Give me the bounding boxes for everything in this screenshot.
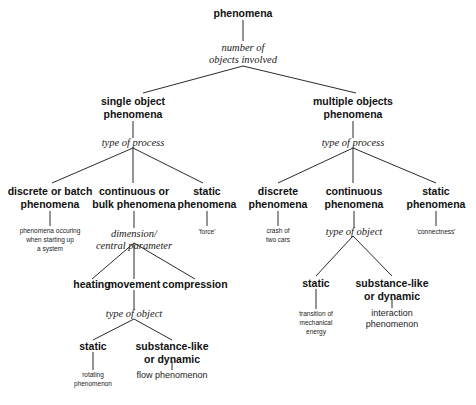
example-text: 'connectness' [417, 227, 456, 236]
node-continuous-or-bulk-phenomena: continuous or bulk phenomena [92, 185, 175, 211]
example-crash-of-two-cars: crash of two cars [266, 226, 290, 244]
criterion-text: objects involved [209, 54, 277, 66]
node-label: single object [101, 95, 165, 108]
node-label: phenomena [214, 7, 273, 20]
node-label: discrete or batch [8, 185, 93, 198]
criterion-text: type of process [102, 137, 165, 149]
criterion-text: central parameter [96, 240, 172, 252]
criterion-text: type of object [326, 226, 383, 238]
node-phenomena: phenomena [214, 7, 273, 20]
node-label: static [178, 185, 237, 198]
node-static-movement: static [79, 340, 106, 353]
node-label: bulk phenomena [92, 198, 175, 211]
criterion-type-of-process-multiple: type of process [322, 137, 385, 149]
example-starting-up-system: phenomena occuring when starting up a sy… [20, 226, 81, 253]
example-connectness: 'connectness' [417, 227, 456, 236]
example-force: 'force' [199, 227, 216, 236]
node-substance-like-or-dynamic-movement: substance-like or dynamic [136, 340, 209, 366]
criterion-text: type of process [322, 137, 385, 149]
criterion-text: number of [209, 42, 277, 54]
node-label: phenomena [178, 198, 237, 211]
node-label: phenomena [407, 198, 466, 211]
node-label: phenomena [313, 108, 393, 121]
node-label: multiple objects [313, 95, 393, 108]
node-static-phenomena-multiple: static phenomena [407, 185, 466, 211]
criterion-dimension-central-parameter: dimension/ central parameter [96, 228, 172, 252]
node-label: or dynamic [356, 290, 429, 303]
example-text: a system [20, 244, 81, 253]
example-text: phenomenon [74, 379, 112, 388]
node-substance-like-or-dynamic-continuous: substance-like or dynamic [356, 277, 429, 303]
node-label: compression [162, 278, 227, 291]
example-text: 'force' [199, 227, 216, 236]
node-static-phenomena-single: static phenomena [178, 185, 237, 211]
node-label: movement [108, 278, 161, 291]
node-label: continuous or [92, 185, 175, 198]
node-label: substance-like [136, 340, 209, 353]
criterion-text: type of object [106, 308, 163, 320]
node-continuous-phenomena: continuous phenomena [325, 185, 384, 211]
example-text: crash of [266, 226, 290, 235]
example-text: rotating [74, 370, 112, 379]
example-text: energy [299, 327, 333, 336]
node-label: static [407, 185, 466, 198]
node-label: static [302, 277, 329, 290]
example-text: flow phenomenon [136, 370, 207, 381]
node-label: phenomena [101, 108, 165, 121]
node-heating: heating [73, 278, 110, 291]
node-multiple-objects-phenomena: multiple objects phenomena [313, 95, 393, 121]
node-label: phenomena [249, 198, 308, 211]
node-discrete-or-batch-phenomena: discrete or batch phenomena [8, 185, 93, 211]
node-label: discrete [249, 185, 308, 198]
node-label: phenomena [8, 198, 93, 211]
node-label: continuous [325, 185, 384, 198]
example-text: mechanical [299, 318, 333, 327]
example-interaction-phenomenon: interaction phenomenon [366, 308, 419, 330]
example-text: transition of [299, 309, 333, 318]
phenomena-taxonomy-diagram: phenomena number of objects involved sin… [0, 0, 476, 405]
example-text: phenomena occuring [20, 226, 81, 235]
example-text: phenomenon [366, 319, 419, 330]
criterion-type-of-object-movement: type of object [106, 308, 163, 320]
node-label: substance-like [356, 277, 429, 290]
node-static-continuous: static [302, 277, 329, 290]
node-single-object-phenomena: single object phenomena [101, 95, 165, 121]
example-flow-phenomenon: flow phenomenon [136, 370, 207, 381]
example-transition-of-mechanical-energy: transition of mechanical energy [299, 309, 333, 336]
node-label: or dynamic [136, 353, 209, 366]
node-label: heating [73, 278, 110, 291]
criterion-text: dimension/ [96, 228, 172, 240]
criterion-type-of-object-continuous: type of object [326, 226, 383, 238]
node-label: phenomena [325, 198, 384, 211]
criterion-number-of-objects: number of objects involved [209, 42, 277, 66]
node-label: static [79, 340, 106, 353]
node-compression: compression [162, 278, 227, 291]
node-movement: movement [108, 278, 161, 291]
example-text: two cars [266, 235, 290, 244]
node-discrete-phenomena: discrete phenomena [249, 185, 308, 211]
example-text: when starting up [20, 235, 81, 244]
criterion-type-of-process-single: type of process [102, 137, 165, 149]
example-rotating-phenomenon: rotating phenomenon [74, 370, 112, 388]
example-text: interaction [366, 308, 419, 319]
